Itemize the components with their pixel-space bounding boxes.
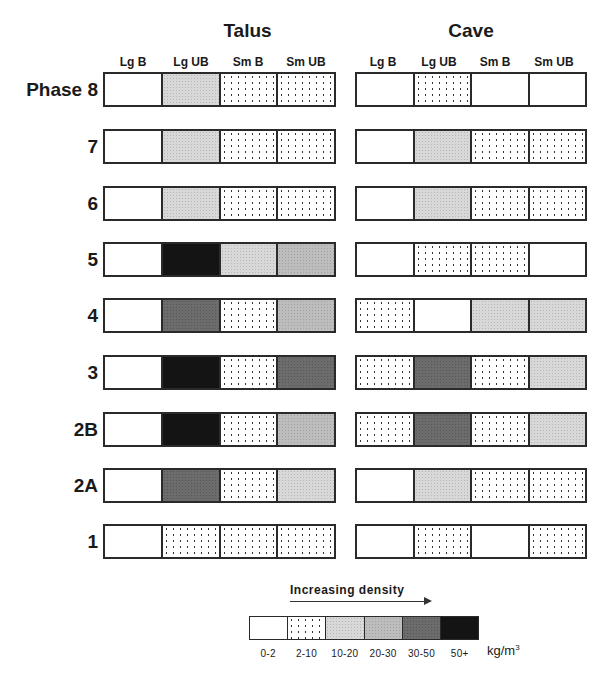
legend-label: 10-20	[326, 648, 364, 659]
talus-density-cell	[278, 470, 334, 501]
cave-density-cell	[415, 244, 473, 275]
legend-label: 0-2	[249, 648, 287, 659]
row-label-phase: 6	[0, 193, 98, 215]
panel-title-talus: Talus	[160, 20, 335, 42]
talus-row-bar	[103, 412, 336, 447]
cave-density-cell	[472, 470, 530, 501]
talus-density-cell	[221, 131, 279, 162]
legend-label: 50+	[441, 648, 479, 659]
talus-density-cell	[221, 414, 279, 445]
row-label-phase: 2A	[0, 475, 98, 497]
cave-density-cell	[472, 414, 530, 445]
talus-density-cell	[163, 300, 221, 331]
talus-col-sm-b: Sm B	[218, 55, 278, 69]
legend-swatch-4	[403, 617, 441, 639]
cave-col-sm-b: Sm B	[467, 55, 523, 69]
row-label-phase: 7	[0, 136, 98, 158]
legend-unit: kg/m3	[487, 643, 520, 658]
cave-density-cell	[357, 188, 415, 219]
cave-density-cell	[415, 74, 473, 105]
legend-label: 2-10	[287, 648, 325, 659]
cave-density-cell	[357, 131, 415, 162]
talus-row-bar	[103, 72, 336, 107]
cave-row-bar	[355, 524, 587, 559]
legend-swatch-5	[441, 617, 478, 639]
cave-density-cell	[415, 357, 473, 388]
cave-density-cell	[530, 470, 586, 501]
talus-density-cell	[221, 526, 279, 557]
talus-row-bar	[103, 298, 336, 333]
cave-density-cell	[415, 470, 473, 501]
talus-density-cell	[278, 357, 334, 388]
talus-density-cell	[163, 74, 221, 105]
talus-density-cell	[221, 188, 279, 219]
cave-density-cell	[357, 357, 415, 388]
cave-row-bar	[355, 129, 587, 164]
cave-density-cell	[415, 188, 473, 219]
arrow-right-icon	[290, 601, 430, 602]
legend-swatches	[249, 616, 479, 640]
cave-density-cell	[357, 414, 415, 445]
legend-label: 20-30	[364, 648, 402, 659]
cave-row-bar	[355, 186, 587, 221]
legend-swatch-2	[326, 617, 364, 639]
row-label-phase: 2B	[0, 419, 98, 441]
talus-row-bar	[103, 186, 336, 221]
cave-density-cell	[357, 470, 415, 501]
cave-density-cell	[415, 131, 473, 162]
talus-density-cell	[105, 74, 163, 105]
talus-density-cell	[163, 414, 221, 445]
talus-row-bar	[103, 129, 336, 164]
cave-row-bar	[355, 242, 587, 277]
talus-density-cell	[105, 470, 163, 501]
talus-density-cell	[278, 188, 334, 219]
talus-col-lg-ub: Lg UB	[163, 55, 219, 69]
talus-density-cell	[278, 131, 334, 162]
cave-density-cell	[357, 244, 415, 275]
talus-density-cell	[163, 526, 221, 557]
cave-density-cell	[357, 74, 415, 105]
cave-density-cell	[472, 74, 530, 105]
cave-density-cell	[530, 300, 586, 331]
talus-density-cell	[278, 526, 334, 557]
legend-labels: 0-2 2-10 10-20 20-30 30-50 50+	[249, 648, 479, 659]
cave-density-cell	[530, 188, 586, 219]
talus-density-cell	[105, 526, 163, 557]
cave-density-cell	[357, 300, 415, 331]
talus-density-cell	[163, 357, 221, 388]
talus-density-cell	[221, 300, 279, 331]
talus-density-cell	[278, 414, 334, 445]
cave-density-cell	[472, 131, 530, 162]
talus-row-bar	[103, 355, 336, 390]
cave-col-lg-ub: Lg UB	[411, 55, 467, 69]
row-label-phase: 4	[0, 305, 98, 327]
cave-density-cell	[530, 357, 586, 388]
talus-density-cell	[105, 357, 163, 388]
cave-density-cell	[530, 131, 586, 162]
cave-row-bar	[355, 355, 587, 390]
cave-row-bar	[355, 298, 587, 333]
talus-density-cell	[221, 74, 279, 105]
talus-density-cell	[105, 244, 163, 275]
talus-density-cell	[278, 244, 334, 275]
cave-density-cell	[415, 300, 473, 331]
cave-col-lg-b: Lg B	[355, 55, 411, 69]
talus-density-cell	[221, 470, 279, 501]
legend-swatch-1	[288, 617, 326, 639]
talus-row-bar	[103, 242, 336, 277]
cave-density-cell	[472, 244, 530, 275]
legend-swatch-3	[365, 617, 403, 639]
cave-row-bar	[355, 468, 587, 503]
cave-density-cell	[472, 526, 530, 557]
talus-density-cell	[278, 74, 334, 105]
cave-density-cell	[530, 414, 586, 445]
row-label-phase: Phase 8	[0, 79, 98, 101]
talus-density-cell	[163, 188, 221, 219]
cave-density-cell	[472, 188, 530, 219]
row-label-phase: 3	[0, 362, 98, 384]
talus-density-cell	[221, 357, 279, 388]
talus-density-cell	[105, 414, 163, 445]
cave-density-cell	[530, 244, 586, 275]
talus-density-cell	[163, 470, 221, 501]
panel-title-cave: Cave	[355, 20, 587, 42]
